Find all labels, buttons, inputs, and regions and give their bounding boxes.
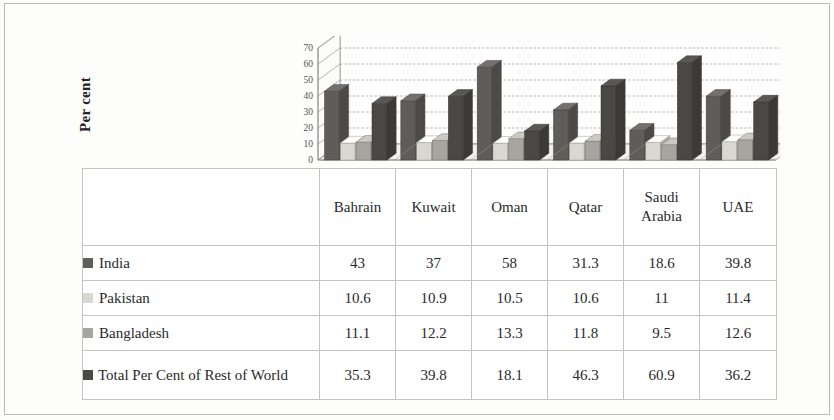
bar-qatar-total-per-cent-of-rest-of-world (601, 79, 625, 160)
column-header-uae: UAE (700, 169, 777, 246)
column-header-oman: Oman (472, 169, 548, 246)
india-swatch-icon (83, 258, 93, 268)
column-header-saudi-arabia: SaudiArabia (624, 169, 700, 246)
row-label-bangladesh: Bangladesh (83, 316, 320, 351)
y-axis-tick-label: 10 (304, 139, 314, 149)
table-cell: 36.2 (700, 351, 777, 400)
bar-front-face (417, 143, 432, 160)
bar-front-face (493, 143, 508, 160)
table-cell: 11.4 (700, 281, 777, 316)
bar-front-face (601, 86, 616, 160)
bangladesh-swatch-icon (83, 328, 93, 338)
table-row: Total Per Cent of Rest of World35.339.81… (83, 351, 777, 400)
figure-root: Per cent 010203040506070 BahrainKuwaitOm… (0, 0, 834, 420)
table-row: India43375831.318.639.8 (83, 246, 777, 281)
row-label-text: India (99, 255, 130, 271)
table-cell: 60.9 (624, 351, 700, 400)
bar-front-face (569, 143, 584, 160)
bar-front-face (646, 142, 661, 160)
bar-front-face (324, 91, 339, 160)
table-cell: 18.6 (624, 246, 700, 281)
table-row: Bangladesh11.112.213.311.89.512.6 (83, 316, 777, 351)
table-cell: 9.5 (624, 316, 700, 351)
table-cell: 37 (396, 246, 472, 281)
y-axis-tick-label: 50 (304, 75, 314, 85)
bar-front-face (433, 140, 448, 160)
bar-front-face (525, 131, 540, 160)
table-cell: 46.3 (548, 351, 624, 400)
bar-front-face (585, 141, 600, 160)
bar-front-face (722, 142, 737, 160)
y-axis-tick-label: 40 (304, 91, 314, 101)
table-cell: 10.5 (472, 281, 548, 316)
row-label-pakistan: Pakistan (83, 281, 320, 316)
bar-front-face (662, 145, 677, 160)
y-axis-tick-label: 30 (304, 107, 314, 117)
row-label-india: India (83, 246, 320, 281)
y-axis-tick-label: 60 (304, 59, 314, 69)
bar-side-face (616, 79, 625, 160)
table-cell: 35.3 (320, 351, 396, 400)
bar-front-face (372, 104, 387, 160)
table-row: Pakistan10.610.910.510.61111.4 (83, 281, 777, 316)
bar-front-face (706, 96, 721, 160)
bar-front-face (630, 130, 645, 160)
table-cell: 11.8 (548, 316, 624, 351)
table-cell: 39.8 (396, 351, 472, 400)
row-label-text: Bangladesh (99, 325, 169, 341)
table-cell: 10.6 (548, 281, 624, 316)
bar-side-face (692, 56, 701, 160)
y-axis-tick-label: 20 (304, 123, 314, 133)
table-cell: 10.9 (396, 281, 472, 316)
column-header-kuwait: Kuwait (396, 169, 472, 246)
table-cell: 12.6 (700, 316, 777, 351)
row-label-text: Total Per Cent of Rest of World (98, 367, 288, 383)
bar-side-face (769, 95, 778, 160)
y-axis-tick-label: 0 (308, 155, 313, 165)
bar-oman-total-per-cent-of-rest-of-world (525, 124, 549, 160)
pakistan-swatch-icon (83, 293, 93, 303)
table-cell: 12.2 (396, 316, 472, 351)
bar-side-face (463, 90, 472, 160)
bar-kuwait-total-per-cent-of-rest-of-world (448, 90, 472, 160)
bar-saudi-arabia-total-per-cent-of-rest-of-world (677, 56, 701, 160)
table-cell: 11 (624, 281, 700, 316)
bar-front-face (356, 142, 371, 160)
bar-front-face (340, 143, 355, 160)
table-cell: 11.1 (320, 316, 396, 351)
bar-front-face (401, 101, 416, 160)
bar-front-face (754, 102, 769, 160)
bar-front-face (738, 140, 753, 160)
bar-front-face (448, 96, 463, 160)
table-cell: 39.8 (700, 246, 777, 281)
bar-uae-total-per-cent-of-rest-of-world (754, 95, 778, 160)
table-header-row: BahrainKuwaitOmanQatarSaudiArabiaUAE (83, 169, 777, 246)
bar-front-face (509, 139, 524, 160)
row-label-text: Pakistan (99, 290, 150, 306)
bar-front-face (553, 110, 568, 160)
data-table: BahrainKuwaitOmanQatarSaudiArabiaUAEIndi… (82, 168, 777, 400)
table-cell: 18.1 (472, 351, 548, 400)
table-cell: 10.6 (320, 281, 396, 316)
bar-chart: 010203040506070 (288, 36, 780, 176)
table-cell: 58 (472, 246, 548, 281)
bar-side-face (387, 97, 396, 160)
table-cell: 31.3 (548, 246, 624, 281)
bar-front-face (677, 63, 692, 160)
table-cell: 13.3 (472, 316, 548, 351)
column-header-qatar: Qatar (548, 169, 624, 246)
bar-bahrain-total-per-cent-of-rest-of-world (372, 97, 396, 160)
table-cell: 43 (320, 246, 396, 281)
row-label-total-per-cent-of-rest-of-world: Total Per Cent of Rest of World (83, 351, 320, 400)
chart-canvas: 010203040506070 (288, 36, 780, 176)
y-axis-tick-label: 70 (304, 43, 314, 53)
total-swatch-icon (83, 370, 93, 380)
column-header-bahrain: Bahrain (320, 169, 396, 246)
header-spacer-cell (83, 169, 320, 246)
